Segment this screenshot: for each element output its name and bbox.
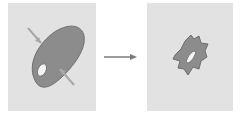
cell-body [32, 26, 84, 87]
before-panel [8, 3, 96, 111]
compression-arrow-upper-icon [28, 28, 41, 43]
crenated-cell-illustration [147, 3, 233, 111]
after-panel [147, 3, 233, 111]
right-arrow-icon [104, 54, 137, 60]
smooth-cell-illustration [8, 3, 96, 111]
